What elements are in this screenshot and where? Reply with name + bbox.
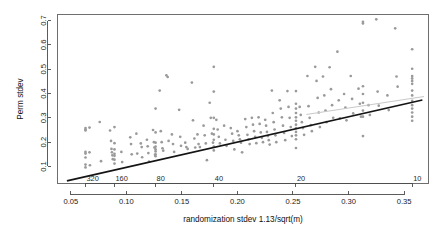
secondary-axis-tick-label: 80 xyxy=(157,174,165,183)
data-point xyxy=(268,143,271,146)
x-axis-tick-label: 0.25 xyxy=(286,197,301,206)
secondary-axis-tick-label: 320 xyxy=(86,174,98,183)
data-point xyxy=(206,159,209,162)
data-point xyxy=(130,143,133,146)
data-point xyxy=(295,134,298,137)
y-axis-tick-label: 0.4 xyxy=(39,88,48,99)
data-point xyxy=(224,138,227,141)
data-point xyxy=(152,129,155,132)
data-point xyxy=(167,140,170,143)
data-point xyxy=(212,149,215,152)
y-axis-tick-label: 0.6 xyxy=(39,40,48,51)
data-point xyxy=(394,27,397,30)
data-point xyxy=(180,144,183,147)
chart-page: 0.050.100.150.200.250.300.35 0.10.20.30.… xyxy=(0,0,447,236)
data-point xyxy=(89,164,92,167)
data-point xyxy=(411,115,414,118)
y-axis-tick-label: 0.5 xyxy=(39,64,48,75)
data-point xyxy=(343,93,346,96)
y-axis-tick-label: 0.7 xyxy=(39,15,48,26)
data-point xyxy=(286,90,289,93)
data-point xyxy=(411,111,414,114)
data-point xyxy=(166,76,169,79)
data-point xyxy=(159,130,162,133)
data-point xyxy=(376,90,379,93)
data-point xyxy=(161,147,164,150)
data-point xyxy=(147,152,150,155)
secondary-axis-tick-label: 160 xyxy=(115,174,127,183)
data-point xyxy=(288,117,291,120)
data-point xyxy=(411,80,414,83)
data-point xyxy=(178,108,181,111)
data-point xyxy=(351,98,354,101)
data-point xyxy=(275,141,278,144)
data-point xyxy=(357,87,360,90)
data-point xyxy=(315,80,318,83)
data-point xyxy=(172,143,175,146)
data-point xyxy=(295,131,298,134)
secondary-axis-tick-label: 20 xyxy=(297,174,305,183)
data-point xyxy=(113,126,116,129)
data-point xyxy=(349,75,352,78)
data-point xyxy=(295,102,298,105)
data-point xyxy=(120,151,123,154)
data-point xyxy=(197,143,200,146)
data-point xyxy=(323,94,326,97)
data-point xyxy=(88,126,91,129)
data-point xyxy=(154,150,157,153)
data-point xyxy=(386,94,389,97)
y-axis-tick-label: 0.3 xyxy=(39,113,48,124)
data-point xyxy=(301,121,304,124)
data-point xyxy=(110,140,113,143)
data-point xyxy=(84,156,87,159)
data-point xyxy=(265,124,268,127)
x-axis-tick-label: 0.30 xyxy=(341,197,356,206)
data-point xyxy=(362,115,365,118)
x-axis-tick-label: 0.20 xyxy=(230,197,245,206)
data-point xyxy=(88,151,91,154)
data-point xyxy=(411,48,414,51)
data-point xyxy=(295,90,298,93)
data-point xyxy=(136,152,139,155)
data-point xyxy=(219,142,222,145)
data-point xyxy=(209,117,212,120)
data-point xyxy=(212,90,215,93)
data-point xyxy=(130,153,133,156)
data-point xyxy=(362,93,365,96)
data-point xyxy=(362,109,365,112)
data-point xyxy=(160,141,163,144)
data-point xyxy=(212,133,215,136)
data-point xyxy=(308,117,311,120)
data-point xyxy=(322,75,325,78)
data-point xyxy=(295,123,298,126)
data-point xyxy=(154,107,157,110)
data-point xyxy=(291,135,294,138)
data-point xyxy=(223,124,226,127)
data-point xyxy=(411,75,414,78)
data-point xyxy=(194,146,197,149)
data-point xyxy=(257,116,260,119)
data-point xyxy=(395,75,398,78)
data-point xyxy=(314,65,317,68)
data-point xyxy=(84,127,87,130)
data-point xyxy=(284,139,287,142)
data-point xyxy=(289,126,292,129)
data-point xyxy=(212,65,215,68)
data-point xyxy=(154,155,157,158)
data-point xyxy=(245,126,248,129)
data-point xyxy=(139,142,142,145)
data-point xyxy=(84,152,87,155)
secondary-axis-tick-label: 10 xyxy=(413,174,421,183)
data-point xyxy=(212,138,215,141)
data-point xyxy=(179,135,182,138)
data-point xyxy=(411,67,414,70)
data-point xyxy=(377,104,380,107)
data-point xyxy=(259,131,262,134)
data-point xyxy=(307,105,310,108)
data-point xyxy=(193,137,196,140)
x-axis-tick-label: 0.05 xyxy=(63,197,78,206)
data-point xyxy=(251,117,254,120)
data-point xyxy=(387,109,390,112)
data-point xyxy=(248,143,251,146)
data-point xyxy=(252,123,255,126)
